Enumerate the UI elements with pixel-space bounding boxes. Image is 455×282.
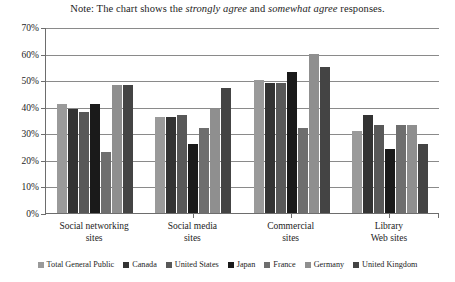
bar[interactable] [418,144,428,213]
bar[interactable] [374,125,384,213]
bar[interactable] [363,115,373,213]
bar[interactable] [101,152,111,213]
bar[interactable] [385,149,395,213]
legend-item[interactable]: United States [166,260,219,269]
chart-note: Note: The chart shows the strongly agree… [0,3,455,14]
legend-label: Japan [237,260,256,269]
legend-item[interactable]: United Kingdom [353,260,417,269]
legend-swatch-icon [228,262,234,268]
bar[interactable] [298,128,308,213]
y-tick-0 [41,214,46,215]
bar-group [46,27,144,213]
x-axis-labels: Social networkingsitesSocial mediasitesC… [45,220,438,244]
legend-item[interactable]: Japan [228,260,256,269]
bar-groups [46,27,439,213]
bar-group [243,27,341,213]
y-axis-label-40: 40% [22,103,39,113]
bar[interactable] [199,128,209,213]
x-axis-label-1: Social mediasites [143,220,241,244]
bar[interactable] [254,80,264,213]
x-axis-separator [291,213,292,218]
note-emphasis-somewhat-agree: somewhat agree [268,3,338,14]
bar[interactable] [210,109,220,213]
bar[interactable] [276,83,286,213]
legend-swatch-icon [38,262,44,268]
bar[interactable] [123,85,133,213]
x-axis-label-line: Commercial [242,220,340,232]
legend-item[interactable]: Germany [305,260,344,269]
legend-swatch-icon [264,262,270,268]
x-axis-separator [389,213,390,218]
legend-swatch-icon [305,262,311,268]
x-axis-label-line: Social media [143,220,241,232]
legend-item[interactable]: Total General Public [38,260,115,269]
chart-plot-area: 0%10%20%30%40%50%60%70% [45,28,438,214]
x-axis-label-3: LibraryWeb sites [340,220,438,244]
legend-label: United States [175,260,219,269]
bar[interactable] [221,88,231,213]
bar[interactable] [352,131,362,213]
bar[interactable] [79,112,89,213]
bar[interactable] [287,72,297,213]
legend-label: United Kingdom [362,260,417,269]
x-axis-separator [193,213,194,218]
note-emphasis-strongly-agree: strongly agree [186,3,248,14]
chart-legend: Total General PublicCanadaUnited StatesJ… [0,260,455,269]
bar[interactable] [155,117,165,213]
x-axis-separator [438,213,439,218]
y-axis-label-10: 10% [22,182,39,192]
x-axis-label-line: Library [340,220,438,232]
bar[interactable] [320,67,330,213]
y-axis-label-70: 70% [22,23,39,33]
bar[interactable] [265,83,275,213]
bar[interactable] [90,104,100,213]
x-axis-label-line: Social networking [45,220,143,232]
bar[interactable] [407,125,417,213]
legend-swatch-icon [166,262,172,268]
legend-item[interactable]: France [264,260,295,269]
y-axis-label-0: 0% [26,209,39,219]
legend-label: Total General Public [47,260,115,269]
legend-item[interactable]: Canada [123,260,157,269]
x-axis-label-line: sites [242,232,340,244]
x-axis-label-line: sites [143,232,241,244]
legend-label: Germany [314,260,344,269]
bar[interactable] [112,85,122,213]
y-axis-label-30: 30% [22,129,39,139]
legend-label: France [273,260,295,269]
x-axis-label-2: Commercialsites [242,220,340,244]
legend-swatch-icon [123,262,129,268]
legend-label: Canada [132,260,157,269]
bar[interactable] [166,117,176,213]
bar[interactable] [177,115,187,213]
bar-group [144,27,242,213]
bar[interactable] [188,144,198,213]
bar[interactable] [396,125,406,213]
y-axis-label-50: 50% [22,76,39,86]
x-axis-label-line: Web sites [340,232,438,244]
x-axis-label-0: Social networkingsites [45,220,143,244]
bar[interactable] [57,104,67,213]
y-axis-label-20: 20% [22,156,39,166]
bar[interactable] [309,54,319,213]
x-axis-label-line: sites [45,232,143,244]
bar[interactable] [68,109,78,213]
bar-group [341,27,439,213]
note-suffix: responses. [338,3,385,14]
note-middle: and [247,3,268,14]
note-prefix: Note: The chart shows the [70,3,185,14]
y-axis-label-60: 60% [22,50,39,60]
legend-swatch-icon [353,262,359,268]
